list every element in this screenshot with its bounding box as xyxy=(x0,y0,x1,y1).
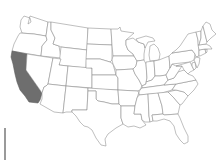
us-states-map xyxy=(0,0,222,160)
state-new-mexico[interactable] xyxy=(63,86,88,113)
scale-bar-line xyxy=(4,128,6,160)
state-colorado[interactable] xyxy=(66,66,92,88)
state-washington[interactable] xyxy=(20,16,48,36)
state-kansas[interactable] xyxy=(92,75,118,90)
state-wyoming[interactable] xyxy=(59,47,87,68)
state-north-dakota[interactable] xyxy=(87,28,112,45)
state-iowa[interactable] xyxy=(112,56,137,70)
state-arizona[interactable] xyxy=(40,84,66,113)
state-florida[interactable] xyxy=(152,114,188,144)
